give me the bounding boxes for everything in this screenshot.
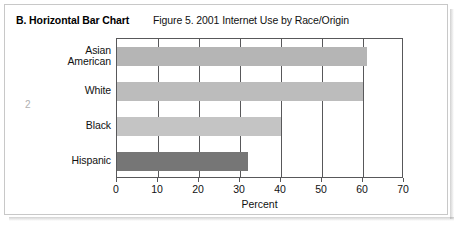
bar-black [117,117,281,136]
bar-hispanic [117,152,248,171]
y-axis-category-labels: AsianAmericanWhiteBlackHispanic [5,38,111,178]
tick-mark-20 [198,178,199,182]
figure-card: B. Horizontal Bar Chart Figure 5. 2001 I… [4,4,448,215]
tick-label-20: 20 [183,183,213,195]
plot-area [116,38,403,178]
bar-white [117,82,363,101]
bar-asian-american [117,47,367,66]
tick-label-50: 50 [306,183,336,195]
card-shadow-bottom [9,217,454,221]
section-label: B. Horizontal Bar Chart [16,14,129,26]
tick-mark-60 [362,178,363,182]
tick-mark-30 [239,178,240,182]
tick-label-0: 0 [101,183,131,195]
x-axis-tick-labels: 010203040506070 [116,183,403,197]
tick-mark-0 [116,178,117,182]
category-label-white: White [6,85,111,96]
tick-mark-70 [403,178,404,182]
chart-title: Figure 5. 2001 Internet Use by Race/Orig… [153,14,349,26]
tick-label-30: 30 [224,183,254,195]
tick-label-40: 40 [265,183,295,195]
category-label-black: Black [6,120,111,131]
category-label-asian-american: AsianAmerican [6,45,111,67]
card-shadow-right [450,9,454,219]
tick-mark-50 [321,178,322,182]
tick-mark-10 [157,178,158,182]
tick-label-60: 60 [347,183,377,195]
category-label-hispanic: Hispanic [6,155,111,166]
tick-label-10: 10 [142,183,172,195]
tick-label-70: 70 [388,183,418,195]
tick-mark-40 [280,178,281,182]
x-axis-title: Percent [116,198,403,210]
